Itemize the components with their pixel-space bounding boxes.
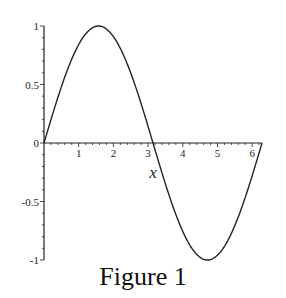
x-tick-label: 2: [111, 147, 117, 159]
x-tick-label: 4: [180, 147, 186, 159]
x-axis-label: x: [148, 163, 157, 182]
x-tick-label: 6: [249, 147, 255, 159]
y-tick-label: 0: [34, 137, 40, 149]
x-tick-label: 3: [145, 147, 151, 159]
y-tick-label: -0.5: [22, 196, 40, 208]
y-tick-label: 0.5: [25, 79, 39, 91]
y-tick-label: 1: [34, 20, 40, 32]
x-tick-label: 1: [76, 147, 82, 159]
x-tick-label: 5: [215, 147, 221, 159]
sine-plot: 123456-1-0.500.51x: [0, 0, 286, 298]
figure-caption: Figure 1: [0, 262, 286, 292]
